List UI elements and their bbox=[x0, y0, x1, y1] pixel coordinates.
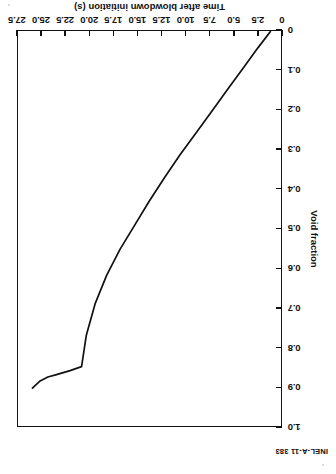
x-tick-label: 20.0 bbox=[80, 15, 98, 26]
y-tick-mark bbox=[276, 387, 282, 388]
x-tick-mark bbox=[257, 30, 258, 36]
y-tick-mark bbox=[276, 109, 282, 110]
y-tick-mark bbox=[276, 148, 282, 149]
x-axis-title: Time after blowdown initiation (s) bbox=[17, 2, 282, 13]
y-tick-mark bbox=[276, 268, 282, 269]
scan-artifact bbox=[8, 4, 10, 6]
x-tick-mark bbox=[89, 30, 90, 36]
y-tick-mark bbox=[276, 69, 282, 70]
x-tick-mark bbox=[281, 30, 282, 36]
scan-artifact bbox=[322, 464, 324, 466]
x-tick-label: 0 bbox=[279, 15, 284, 26]
x-tick-mark bbox=[16, 30, 17, 36]
x-tick-mark bbox=[40, 30, 41, 36]
x-tick-mark bbox=[113, 30, 114, 36]
x-tick-label: 7.5 bbox=[203, 15, 216, 26]
figure-rotation-wrapper: 02.55.07.510.012.515.017.520.022.525.027… bbox=[0, 0, 336, 474]
x-tick-label: 12.5 bbox=[153, 15, 171, 26]
x-tick-label: 2.5 bbox=[252, 15, 265, 26]
x-tick-mark bbox=[65, 30, 66, 36]
y-tick-mark bbox=[276, 307, 282, 308]
x-tick-label: 5.0 bbox=[228, 15, 241, 26]
x-tick-mark bbox=[209, 30, 210, 36]
void-fraction-line bbox=[32, 32, 270, 389]
y-tick-mark bbox=[276, 426, 282, 427]
y-axis-title: Void fraction bbox=[309, 139, 320, 339]
x-tick-mark bbox=[137, 30, 138, 36]
x-tick-label: 25.0 bbox=[32, 15, 50, 26]
x-tick-mark bbox=[233, 30, 234, 36]
y-tick-mark bbox=[276, 228, 282, 229]
x-tick-label: 10.0 bbox=[177, 15, 195, 26]
figure-identifier: INEL-A-11 383 bbox=[275, 447, 328, 456]
x-tick-mark bbox=[161, 30, 162, 36]
y-tick-mark bbox=[276, 188, 282, 189]
plot-canvas bbox=[17, 30, 282, 427]
y-tick-mark bbox=[276, 347, 282, 348]
x-tick-label: 27.5 bbox=[8, 15, 26, 26]
x-tick-label: 22.5 bbox=[56, 15, 74, 26]
y-tick-mark bbox=[276, 29, 282, 30]
x-tick-label: 17.5 bbox=[105, 15, 123, 26]
x-tick-label: 15.0 bbox=[129, 15, 147, 26]
x-tick-mark bbox=[185, 30, 186, 36]
chart-figure: 02.55.07.510.012.515.017.520.022.525.027… bbox=[0, 0, 336, 474]
